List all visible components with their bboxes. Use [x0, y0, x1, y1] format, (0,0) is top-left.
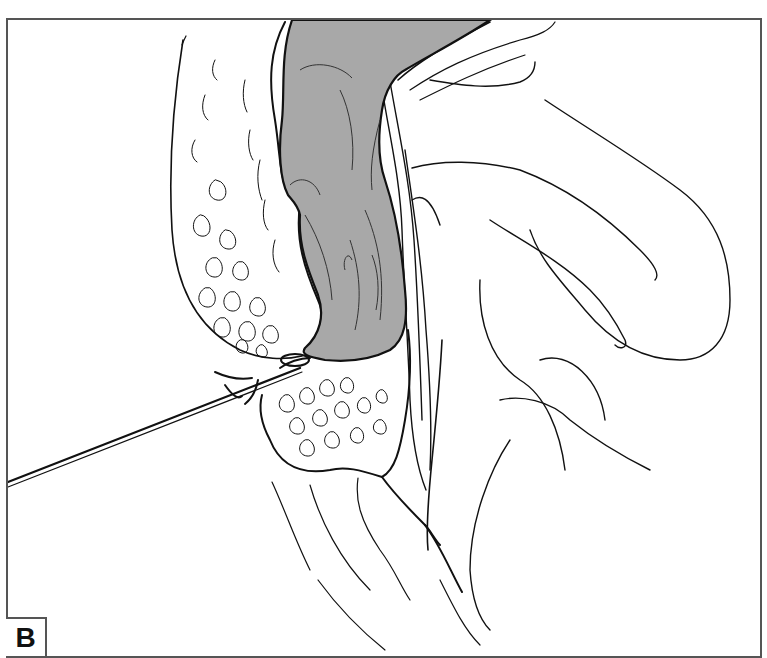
fat-globules-lower [279, 378, 387, 456]
folded-tissue-right [530, 100, 730, 360]
panel-label: B [15, 624, 35, 652]
gray-organ [280, 20, 490, 361]
lower-left-lines [272, 477, 480, 650]
lower-tissue-lines [470, 280, 650, 630]
fat-globules-upper [192, 60, 279, 357]
needle [8, 368, 302, 487]
panel-label-box: B [6, 617, 47, 656]
illustration-svg [0, 0, 767, 658]
anatomical-illustration: B [0, 0, 767, 658]
